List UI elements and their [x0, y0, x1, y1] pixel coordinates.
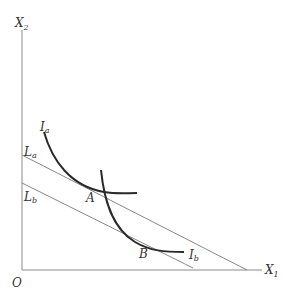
- x-axis-label: X1: [264, 263, 279, 279]
- indifference-curve-b-label: Ib: [188, 248, 199, 263]
- budget-line-b: [22, 183, 193, 268]
- point-b-label: B: [138, 247, 148, 261]
- origin-label: O: [12, 276, 22, 290]
- indifference-curve-b: [101, 170, 184, 252]
- indifference-curve-a: [44, 132, 137, 193]
- budget-line-a-label: La: [23, 145, 37, 160]
- point-a-label: A: [85, 191, 95, 205]
- indifference-curve-diagram: X2 X1 O La Lb Ia Ib A B: [0, 0, 284, 297]
- indifference-curve-a-label: Ia: [39, 120, 50, 135]
- budget-line-b-label: Lb: [23, 190, 37, 205]
- y-axis-label: X2: [14, 16, 29, 32]
- budget-line-a: [22, 155, 247, 270]
